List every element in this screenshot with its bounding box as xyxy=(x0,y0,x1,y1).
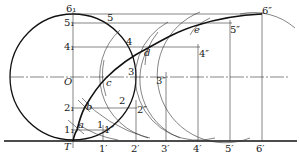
label-3: 3 xyxy=(128,66,134,77)
label-c: c xyxy=(106,77,112,88)
label-5: 5 xyxy=(107,12,113,23)
label-b: b xyxy=(86,101,92,112)
label-4: 4 xyxy=(126,36,132,47)
label-2pp: 2″ xyxy=(137,104,147,115)
label-6pp: 6″ xyxy=(262,5,272,16)
label-3pp: 3″ xyxy=(156,75,166,86)
label-4p: 4′ xyxy=(193,143,202,154)
label-3p: 3′ xyxy=(161,143,170,154)
label-2-1: 2₁ xyxy=(64,102,74,113)
arc-3b xyxy=(140,45,180,138)
label-1-1: 1₁ xyxy=(64,124,74,135)
cycloid-diagram: 6₁ 5₁ 4₁ O 2₁ 1₁ T 5 4 3 2 1 a b c d e 1… xyxy=(0,0,299,156)
label-4pp: 4″ xyxy=(199,48,209,59)
label-2p: 2′ xyxy=(131,143,140,154)
label-5-1: 5₁ xyxy=(64,17,74,28)
label-a: a xyxy=(78,119,84,130)
label-4-1: 4₁ xyxy=(64,41,74,52)
label-e: e xyxy=(194,24,200,35)
label-O: O xyxy=(64,76,72,87)
label-6p: 6′ xyxy=(256,143,265,154)
label-1p: 1′ xyxy=(99,143,108,154)
label-5pp: 5″ xyxy=(230,24,240,35)
label-2: 2 xyxy=(119,95,125,106)
label-d: d xyxy=(144,47,150,58)
label-1pp: 1″ xyxy=(104,124,114,135)
label-1: 1 xyxy=(97,119,103,130)
label-6-1: 6₁ xyxy=(66,3,76,14)
arc-4 xyxy=(135,22,215,140)
label-5p: 5′ xyxy=(225,143,234,154)
label-T: T xyxy=(64,141,72,152)
